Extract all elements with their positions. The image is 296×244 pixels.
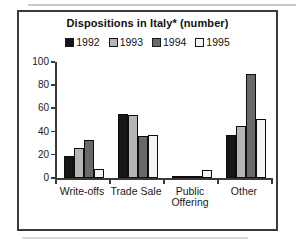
y-axis-tick (51, 107, 55, 109)
legend-swatch (109, 38, 118, 47)
x-axis-tick (109, 179, 111, 184)
plot-area (55, 62, 273, 180)
bar (74, 148, 84, 178)
y-axis-tick-label: 20 (25, 150, 49, 160)
bar (192, 176, 202, 178)
bar (256, 119, 266, 178)
y-axis-tick (51, 154, 55, 156)
x-axis-tick (217, 179, 219, 184)
y-axis-tick-label: 0 (25, 173, 49, 183)
bar (226, 135, 236, 178)
y-axis-tick-label: 60 (25, 103, 49, 113)
chart-frame: Dispositions in Italy* (number) 19921993… (17, 10, 278, 231)
bar (118, 114, 128, 178)
y-axis-tick-label: 40 (25, 127, 49, 137)
legend-label: 1992 (76, 36, 99, 48)
page-top-rule (28, 4, 296, 6)
y-axis-tick (51, 61, 55, 63)
legend-swatch (152, 38, 161, 47)
x-axis-category-label: Other (217, 186, 271, 197)
y-axis-tick-label: 100 (25, 57, 49, 67)
bar (246, 74, 256, 178)
y-axis-tick-label: 80 (25, 80, 49, 90)
bar-group (57, 62, 111, 178)
x-axis-tick (271, 179, 273, 184)
y-axis-tick (51, 131, 55, 133)
x-axis-category-label: Write-offs (55, 186, 109, 197)
bar (182, 176, 192, 178)
bar-group (219, 62, 273, 178)
bar-group (111, 62, 165, 178)
chart-title: Dispositions in Italy* (number) (19, 17, 276, 29)
bar (94, 169, 104, 178)
legend-swatch (195, 38, 204, 47)
bar (138, 136, 148, 178)
chart-legend: 1992199319941995 (19, 36, 276, 48)
screenshot-root: Dispositions in Italy* (number) 19921993… (0, 0, 296, 244)
bar (202, 170, 212, 178)
bar (148, 135, 158, 178)
legend-item: 1995 (195, 36, 229, 48)
x-axis-tick (163, 179, 165, 184)
x-axis-category-label: Trade Sale (109, 186, 163, 197)
bar (128, 115, 138, 178)
legend-item: 1993 (109, 36, 143, 48)
legend-label: 1995 (206, 36, 229, 48)
bar-group (165, 62, 219, 178)
legend-item: 1992 (65, 36, 99, 48)
bar (172, 176, 182, 178)
bar (84, 140, 94, 178)
legend-swatch (65, 38, 74, 47)
legend-label: 1993 (120, 36, 143, 48)
x-axis-tick (55, 179, 57, 184)
bar (236, 126, 246, 178)
bar (64, 156, 74, 178)
x-axis-category-label: Public Offering (163, 186, 217, 208)
y-axis-tick (51, 84, 55, 86)
page-bottom-rule (22, 237, 248, 239)
legend-label: 1994 (163, 36, 186, 48)
legend-item: 1994 (152, 36, 186, 48)
